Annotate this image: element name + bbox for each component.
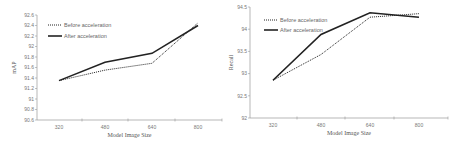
y-tick-label: 94.5 xyxy=(237,4,247,10)
y-tick-label: 90.6 xyxy=(24,117,34,123)
legend-label: Before acceleration xyxy=(280,17,327,23)
recall-chart: 9292.59393.59494.5320480640800Model Imag… xyxy=(228,0,456,144)
y-tick-label: 92.2 xyxy=(24,33,34,39)
y-tick-label: 91.8 xyxy=(24,54,34,60)
x-tick-label: 480 xyxy=(101,124,110,130)
y-tick-label: 93 xyxy=(241,70,247,76)
y-tick-label: 93.5 xyxy=(237,48,247,54)
y-axis-title: mAP xyxy=(11,61,17,74)
y-tick-label: 92.6 xyxy=(24,12,34,18)
map-chart-svg: 90.690.89191.291.491.691.89292.292.492.6… xyxy=(0,0,228,144)
y-tick-label: 92.4 xyxy=(24,22,34,28)
x-tick-label: 640 xyxy=(366,122,375,128)
y-tick-label: 94 xyxy=(241,26,247,32)
y-tick-label: 91.4 xyxy=(24,75,34,81)
x-tick-label: 800 xyxy=(194,124,203,130)
y-tick-label: 92.5 xyxy=(237,93,247,99)
legend-label: Before acceleration xyxy=(64,22,111,28)
x-tick-label: 320 xyxy=(269,122,278,128)
x-tick-label: 320 xyxy=(55,124,64,130)
y-axis-title: Recall xyxy=(228,55,234,71)
y-tick-label: 91.6 xyxy=(24,64,34,70)
x-axis-title: Model Image Size xyxy=(108,132,152,138)
y-tick-label: 92 xyxy=(28,43,34,49)
map-chart: 90.690.89191.291.491.691.89292.292.492.6… xyxy=(0,0,228,144)
recall-chart-svg: 9292.59393.59494.5320480640800Model Imag… xyxy=(228,0,456,144)
y-tick-label: 91 xyxy=(28,96,34,102)
y-tick-label: 90.8 xyxy=(24,106,34,112)
y-tick-label: 92 xyxy=(241,115,247,121)
x-axis-title: Model Image Size xyxy=(327,130,371,136)
x-tick-label: 800 xyxy=(415,122,424,128)
x-tick-label: 640 xyxy=(148,124,157,130)
legend-label: After acceleration xyxy=(64,33,107,39)
y-tick-label: 91.2 xyxy=(24,85,34,91)
legend-label: After acceleration xyxy=(280,27,323,33)
x-tick-label: 480 xyxy=(317,122,326,128)
